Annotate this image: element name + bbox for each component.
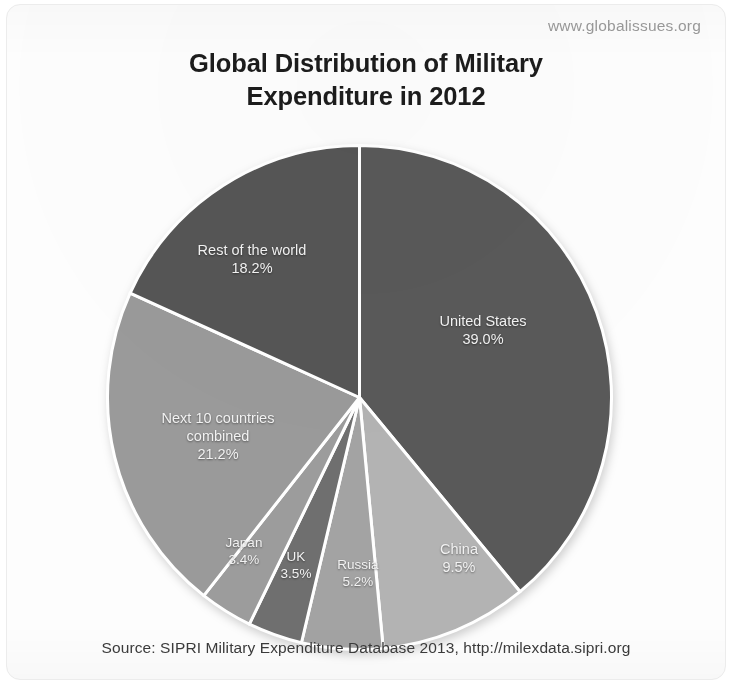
chart-title-line-1: Global Distribution of Military xyxy=(7,47,725,80)
pie-chart-svg xyxy=(106,144,613,651)
pie-slice-group xyxy=(108,146,612,650)
pie-chart: United States39.0%China9.5%Russia5.2%UK3… xyxy=(106,144,613,651)
chart-title: Global Distribution of Military Expendit… xyxy=(7,47,725,112)
chart-card: www.globalissues.org Global Distribution… xyxy=(6,4,726,680)
watermark-url: www.globalissues.org xyxy=(548,17,701,35)
source-note: Source: SIPRI Military Expenditure Datab… xyxy=(7,639,725,657)
chart-title-line-2: Expenditure in 2012 xyxy=(7,80,725,113)
